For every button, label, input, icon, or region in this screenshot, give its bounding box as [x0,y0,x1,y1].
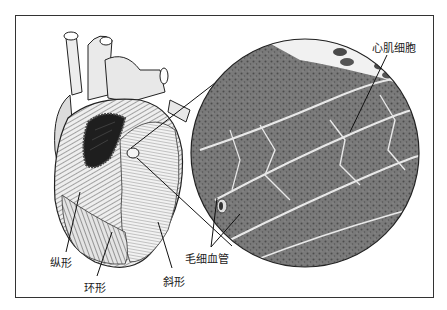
heart-drawing [55,32,190,267]
label-cardiomyocyte: 心肌细胞 [372,39,416,55]
label-oblique: 斜形 [163,273,185,289]
label-circular: 环形 [84,279,106,295]
label-capillary: 毛细血管 [185,250,229,266]
label-longitudinal: 纵形 [50,254,72,270]
